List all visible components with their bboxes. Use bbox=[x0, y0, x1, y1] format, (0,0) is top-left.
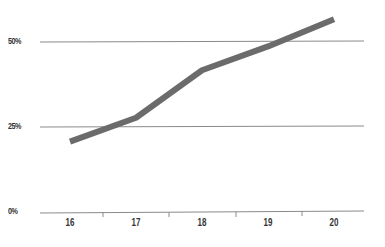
gridline-50 bbox=[40, 41, 364, 42]
line-chart: 50% 25% 0% 16 17 18 19 20 bbox=[0, 0, 385, 247]
x-tick-label-19: 19 bbox=[256, 217, 280, 228]
x-tick-label-17: 17 bbox=[124, 217, 148, 228]
x-tick-label-16: 16 bbox=[58, 217, 82, 228]
y-tick-label-50: 50% bbox=[8, 36, 32, 46]
x-tick-label-20: 20 bbox=[322, 217, 346, 228]
gridline-25 bbox=[40, 126, 364, 127]
y-tick-label-0: 0% bbox=[8, 206, 32, 216]
x-tick-label-18: 18 bbox=[190, 217, 214, 228]
chart-plot-area bbox=[0, 0, 385, 247]
data-line-series-1 bbox=[70, 19, 334, 141]
y-tick-label-25: 25% bbox=[8, 121, 32, 131]
x-axis bbox=[40, 211, 364, 213]
